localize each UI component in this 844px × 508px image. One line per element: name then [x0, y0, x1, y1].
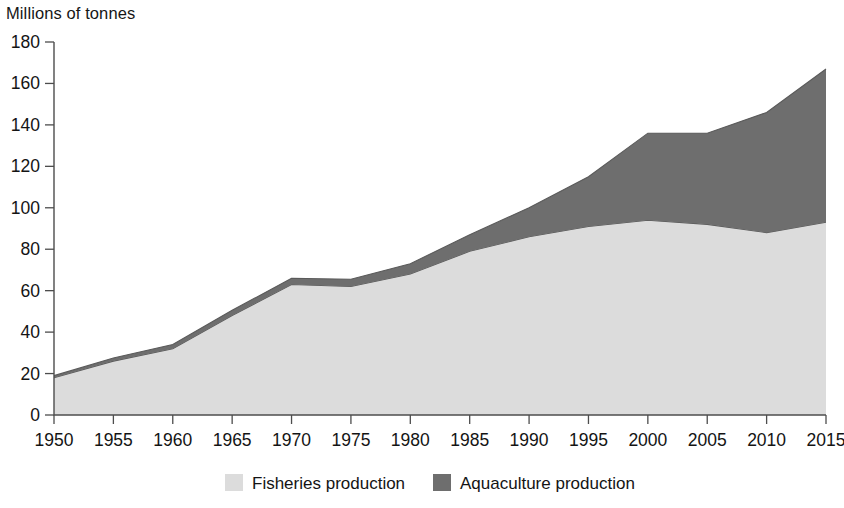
legend-label: Aquaculture production: [460, 474, 635, 493]
x-axis-tick-group: 1950195519601965197019751980198519901995…: [35, 415, 844, 450]
x-axis-tick-label: 1990: [510, 430, 549, 450]
y-axis-tick-group: 020406080100120140160180: [11, 32, 54, 425]
y-axis-tick-label: 40: [21, 322, 41, 342]
chart-legend: Fisheries productionAquaculture producti…: [225, 474, 635, 493]
x-axis-tick-label: 1995: [569, 430, 608, 450]
x-axis-tick-label: 2000: [628, 430, 667, 450]
x-axis-tick-label: 1955: [94, 430, 133, 450]
legend-label: Fisheries production: [252, 474, 405, 493]
x-axis-tick-label: 1985: [450, 430, 489, 450]
legend-swatch: [225, 474, 243, 491]
y-axis-tick-label: 140: [11, 115, 40, 135]
x-axis-tick-label: 2010: [747, 430, 786, 450]
legend-swatch: [433, 474, 451, 491]
y-axis-tick-label: 120: [11, 156, 40, 176]
y-axis-tick-label: 60: [21, 281, 41, 301]
y-axis-tick-label: 80: [21, 239, 41, 259]
x-axis-tick-label: 1980: [391, 430, 430, 450]
x-axis-tick-label: 1970: [272, 430, 311, 450]
y-axis-tick-label: 180: [11, 32, 40, 52]
area-chart-svg: 020406080100120140160180 195019551960196…: [0, 0, 844, 508]
y-axis-tick-label: 100: [11, 198, 40, 218]
series-area-group: [54, 69, 826, 415]
y-axis-tick-label: 20: [21, 364, 41, 384]
y-axis-tick-label: 160: [11, 73, 40, 93]
x-axis-tick-label: 1965: [213, 430, 252, 450]
x-axis-tick-label: 1960: [153, 430, 192, 450]
chart-container: Millions of tonnes 020406080100120140160…: [0, 0, 844, 508]
x-axis-tick-label: 1975: [331, 430, 370, 450]
y-axis-tick-label: 0: [30, 405, 40, 425]
x-axis-tick-label: 2005: [688, 430, 727, 450]
x-axis-tick-label: 2015: [807, 430, 844, 450]
x-axis-tick-label: 1950: [35, 430, 74, 450]
